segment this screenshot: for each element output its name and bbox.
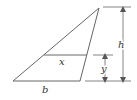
triangle-shape <box>13 8 99 81</box>
diagram-svg: x b h y <box>0 0 137 100</box>
triangle-diagram: x b h y <box>0 0 137 100</box>
label-b: b <box>42 84 48 95</box>
label-x: x <box>59 56 65 67</box>
label-y: y <box>100 63 107 74</box>
label-h: h <box>118 39 124 50</box>
